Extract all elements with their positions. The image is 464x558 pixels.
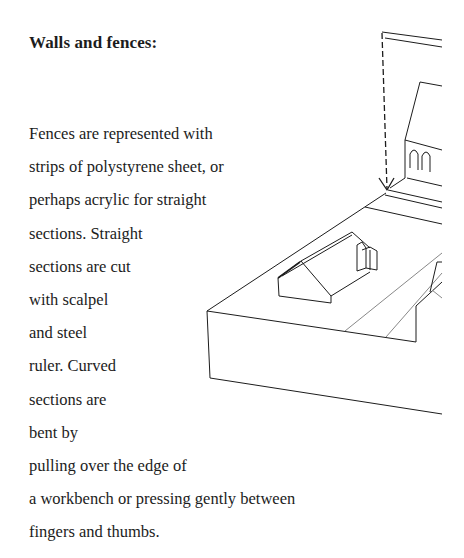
dashed-arrow-icon [379,33,394,190]
back-wall [382,32,442,47]
baseboard [207,193,442,414]
church-building [390,82,442,188]
model-baseboard-illustration [0,0,464,558]
fence-strips [365,190,442,224]
house-model [278,232,377,303]
